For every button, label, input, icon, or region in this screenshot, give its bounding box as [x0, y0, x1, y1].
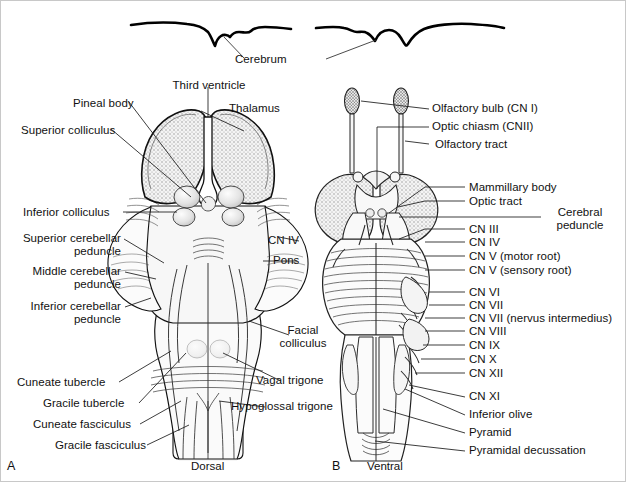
label-pyramidal-decussation: Pyramidal decussation: [469, 444, 586, 457]
optic-nerve-knob-right: [390, 172, 400, 182]
label-olfactory-tract: Olfactory tract: [435, 138, 507, 151]
superior-colliculus-left: [174, 186, 200, 208]
label-mammillary-body: Mammillary body: [469, 181, 557, 194]
label-cuneate-tubercle: Cuneate tubercle: [17, 376, 105, 389]
label-superior-cerebellar-peduncle: Superior cerebellar peduncle: [9, 232, 121, 257]
inferior-colliculus-right: [222, 208, 244, 226]
label-cn-xii: CN XII: [469, 367, 503, 380]
label-pons: Pons: [273, 254, 299, 267]
label-cn-v-motor-root: CN V (motor root): [469, 250, 561, 263]
olfactory-bulb-right: [394, 88, 409, 114]
label-cn-iii: CN III: [469, 223, 499, 236]
label-olfactory-bulb: Olfactory bulb (CN I): [432, 102, 538, 115]
label-cn-iv-dorsal: CN IV: [268, 234, 299, 247]
label-thalamus: Thalamus: [229, 102, 280, 115]
panel-letter-a: A: [7, 459, 15, 473]
olfactory-tract-right: [399, 114, 403, 173]
panel-caption-dorsal: Dorsal: [191, 460, 224, 472]
label-cn-x: CN X: [469, 353, 497, 366]
label-cuneate-fasciculus: Cuneate fasciculus: [33, 418, 131, 431]
figure-container: Cerebrum Third ventricle Pineal body Tha…: [0, 0, 626, 482]
panel-caption-ventral: Ventral: [367, 460, 403, 472]
label-cn-viii: CN VIII: [469, 325, 506, 338]
label-cn-xi: CN XI: [469, 390, 500, 403]
label-gracile-tubercle: Gracile tubercle: [43, 397, 124, 410]
label-inferior-olive: Inferior olive: [469, 408, 532, 421]
cerebrum-outline-left: [131, 23, 291, 46]
panel-letter-b: B: [332, 459, 340, 473]
cerebrum-outline-right: [316, 24, 504, 46]
label-optic-tract: Optic tract: [469, 195, 522, 208]
flocculus-area: [403, 319, 429, 351]
label-inferior-colliculus: Inferior colliculus: [23, 206, 110, 219]
label-cn-vii-nervus-intermedius: CN VII (nervus intermedius): [469, 312, 612, 325]
label-inferior-cerebellar-peduncle: Inferior cerebellar peduncle: [9, 300, 121, 325]
label-superior-colliculus: Superior colliculus: [21, 124, 115, 137]
label-gracile-fasciculus: Gracile fasciculus: [55, 439, 146, 452]
label-middle-cerebellar-peduncle: Middle cerebellar peduncle: [9, 265, 121, 290]
mammillary-body-right: [378, 209, 386, 217]
label-vagal-trigone: Vagal trigone: [256, 374, 324, 387]
label-cn-v-sensory-root: CN V (sensory root): [469, 264, 572, 277]
label-facial-colliculus: Facial colliculus: [267, 324, 339, 349]
label-cerebrum: Cerebrum: [235, 53, 287, 66]
inferior-colliculus-left: [173, 208, 195, 226]
optic-nerve-knob-left: [353, 172, 363, 182]
thalamus-left: [142, 110, 209, 204]
label-cn-vi: CN VI: [469, 286, 500, 299]
label-cn-vii: CN VII: [469, 299, 503, 312]
label-hypoglossal-trigone: Hypoglossal trigone: [231, 400, 333, 413]
olfactory-bulb-left: [345, 88, 360, 114]
olfactory-tract-left: [350, 114, 354, 173]
label-cn-ix: CN IX: [469, 339, 500, 352]
label-pyramid: Pyramid: [469, 426, 512, 439]
label-third-ventricle: Third ventricle: [163, 79, 255, 92]
label-optic-chiasm: Optic chiasm (CNII): [432, 120, 533, 133]
pineal-body-a: [201, 197, 215, 212]
label-cerebral-peduncle: Cerebral peduncle: [542, 206, 618, 231]
label-pineal-body: Pineal body: [73, 97, 134, 110]
label-cn-iv-ventral: CN IV: [469, 236, 500, 249]
cerebrum-leader-right: [326, 40, 376, 59]
superior-colliculus-right: [218, 186, 244, 208]
mammillary-body-left: [366, 209, 374, 217]
